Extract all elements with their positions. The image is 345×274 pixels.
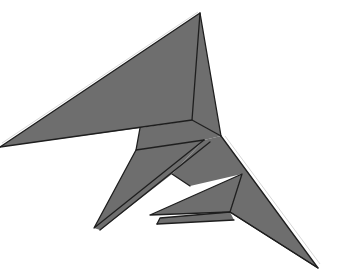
origami-diagram-svg: [0, 0, 345, 274]
